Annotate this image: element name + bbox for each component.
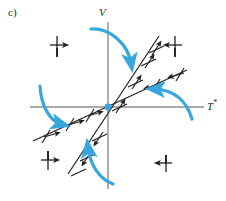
quadrant-marker-bottom-right — [157, 155, 172, 172]
phase-portrait-figure: c) V T* — [0, 0, 226, 201]
quadrant-marker-bottom-left — [41, 151, 57, 170]
trajectory-top — [91, 29, 131, 63]
horizontal-axis-label: T* — [207, 99, 217, 112]
vertical-axis-label: V — [99, 7, 106, 18]
equilibrium-dot — [105, 104, 112, 111]
unstable-manifold — [68, 36, 164, 176]
quadrant-marker-top-right — [166, 36, 182, 57]
panel-label: c) — [8, 7, 17, 18]
quadrant-marker-top-left — [50, 36, 66, 57]
trajectory-left — [40, 86, 61, 124]
phase-portrait-canvas — [0, 0, 226, 201]
horizontal-axis-label-superscript: * — [213, 98, 217, 107]
trajectory-bottom — [88, 148, 113, 184]
axis-group — [30, 22, 204, 189]
trajectory-right — [155, 89, 192, 119]
